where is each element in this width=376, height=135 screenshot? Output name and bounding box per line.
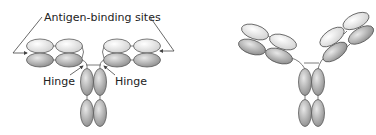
light-chain-vl-left xyxy=(27,39,54,53)
antibody-extended: Antigen-binding sites xyxy=(13,11,174,127)
light-chain-cl-left xyxy=(56,39,83,53)
hinge-label-right: Hinge xyxy=(115,75,147,88)
heavy-chain-ch1-right xyxy=(104,53,131,67)
flexed-heavy-chain-ch3-right xyxy=(312,100,325,127)
light-chain-vl-right xyxy=(134,39,161,53)
heavy-chain-ch2-left xyxy=(81,69,94,96)
hinge-label-left: Hinge xyxy=(43,75,75,88)
heavy-chain-ch3-left xyxy=(81,100,94,127)
antibody-diagram: Antigen-binding sites xyxy=(0,0,376,135)
flexed-heavy-chain-ch2-left xyxy=(299,69,312,96)
heavy-chain-ch3-right xyxy=(94,100,107,127)
flexed-heavy-chain-ch2-right xyxy=(312,69,325,96)
heavy-chain-ch2-right xyxy=(94,69,107,96)
heavy-chain-ch1-left xyxy=(56,53,83,67)
heavy-chain-vh-left xyxy=(27,53,54,67)
heavy-chain-vh-right xyxy=(134,53,161,67)
antibody-flexed xyxy=(237,9,376,127)
flexed-heavy-chain-ch3-left xyxy=(299,100,312,127)
light-chain-cl-right xyxy=(104,39,131,53)
antigen-binding-sites-label: Antigen-binding sites xyxy=(44,11,161,24)
